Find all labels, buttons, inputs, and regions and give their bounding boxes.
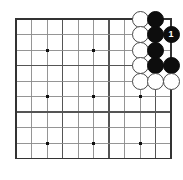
stone-black-numbered[interactable]: 1 xyxy=(163,26,180,43)
stone-white[interactable] xyxy=(132,73,149,90)
stone-black[interactable] xyxy=(147,57,164,74)
stone-white[interactable] xyxy=(147,73,164,90)
stone-black[interactable] xyxy=(163,57,180,74)
star-point xyxy=(92,95,95,98)
stone-move-number: 1 xyxy=(164,27,179,42)
stone-black[interactable] xyxy=(147,42,164,59)
star-point xyxy=(92,142,95,145)
stone-white[interactable] xyxy=(132,26,149,43)
star-point xyxy=(46,95,49,98)
stone-black[interactable] xyxy=(147,11,164,28)
stone-white[interactable] xyxy=(132,11,149,28)
stone-white[interactable] xyxy=(132,42,149,59)
stone-white[interactable] xyxy=(132,57,149,74)
go-diagram: 1 xyxy=(0,0,183,180)
star-point xyxy=(139,142,142,145)
star-point xyxy=(46,49,49,52)
stone-white[interactable] xyxy=(163,73,180,90)
star-point xyxy=(92,49,95,52)
stone-black[interactable] xyxy=(147,26,164,43)
star-point xyxy=(139,95,142,98)
star-point xyxy=(46,142,49,145)
